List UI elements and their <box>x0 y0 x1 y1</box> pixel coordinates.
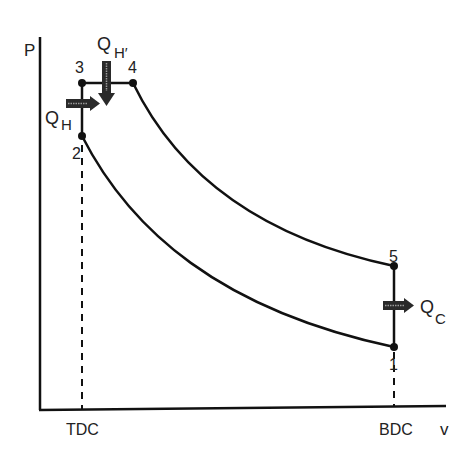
qh-subscript: H <box>61 116 72 133</box>
expansion-curve <box>133 83 394 266</box>
point-label-1: 1 <box>389 356 398 373</box>
pv-diagram: P v TDC BDC 1 2 3 4 5 Q H <box>0 0 475 456</box>
compression-curve <box>82 136 394 347</box>
y-axis-label: P <box>24 41 35 60</box>
point-3 <box>78 79 86 87</box>
point-4 <box>129 79 137 87</box>
axes <box>39 37 446 410</box>
x-axis <box>39 406 446 410</box>
point-2 <box>78 132 86 140</box>
tick-label-tdc: TDC <box>66 421 99 438</box>
state-points <box>78 79 398 351</box>
point-1 <box>390 343 398 351</box>
cycle <box>82 83 394 347</box>
point-label-4: 4 <box>128 59 137 76</box>
point-label-2: 2 <box>72 145 81 162</box>
qc-label: Q <box>420 297 434 317</box>
qh-label: Q <box>45 108 59 128</box>
tick-label-bdc: BDC <box>379 421 413 438</box>
qh-prime-label: Q <box>97 34 111 54</box>
qc-arrow-icon <box>383 298 414 313</box>
point-label-3: 3 <box>75 59 84 76</box>
qh-prime-subscript: H′ <box>114 44 128 61</box>
x-axis-label: v <box>440 420 449 439</box>
point-label-5: 5 <box>389 248 398 265</box>
qc-subscript: C <box>435 310 446 327</box>
